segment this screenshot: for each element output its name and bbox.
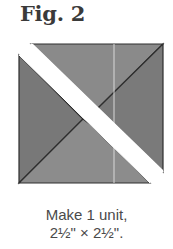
caption-line-2: 2½" × 2½". xyxy=(0,224,173,242)
caption-line-1: Make 1 unit, xyxy=(0,206,173,224)
